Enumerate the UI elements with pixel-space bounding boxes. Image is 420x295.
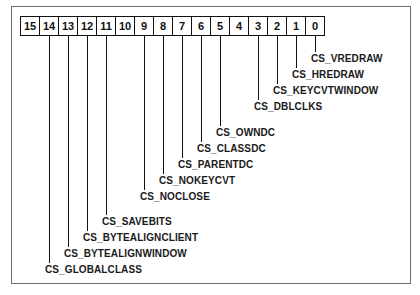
bit-cell-3: 3: [248, 16, 268, 36]
leader-line-bit-12: [87, 36, 88, 231]
flag-label-cs-bytealignclient: CS_BYTEALIGNCLIENT: [83, 232, 198, 243]
bit-cell-12: 12: [77, 16, 97, 36]
leader-line-bit-7: [182, 36, 183, 158]
leader-line-bit-13: [68, 36, 69, 247]
bit-cell-6: 6: [191, 16, 211, 36]
leader-line-bit-1: [296, 36, 297, 68]
leader-line-bit-5: [220, 36, 221, 126]
leader-line-bit-2: [277, 36, 278, 84]
flag-label-cs-noclose: CS_NOCLOSE: [140, 191, 210, 202]
bit-cell-15: 15: [20, 16, 40, 36]
leader-line-bit-3: [258, 36, 259, 100]
bit-cell-7: 7: [172, 16, 192, 36]
bit-cell-14: 14: [39, 16, 59, 36]
leader-line-bit-0: [315, 36, 316, 52]
bit-cell-9: 9: [134, 16, 154, 36]
leader-line-bit-14: [49, 36, 50, 263]
bit-cell-5: 5: [210, 16, 230, 36]
leader-line-bit-9: [144, 36, 145, 190]
flag-label-cs-parentdc: CS_PARENTDC: [178, 159, 253, 170]
leader-line-bit-11: [106, 36, 107, 215]
bit-cell-11: 11: [96, 16, 116, 36]
flag-label-cs-dblclks: CS_DBLCLKS: [254, 101, 322, 112]
flag-label-cs-vredraw: CS_VREDRAW: [311, 53, 383, 64]
leader-line-bit-8: [163, 36, 164, 174]
bit-cell-2: 2: [267, 16, 287, 36]
flag-label-cs-globalclass: CS_GLOBALCLASS: [45, 264, 142, 275]
flag-label-cs-owndc: CS_OWNDC: [216, 127, 275, 138]
bit-cell-8: 8: [153, 16, 173, 36]
bit-cell-1: 1: [286, 16, 306, 36]
flag-label-cs-hredraw: CS_HREDRAW: [292, 69, 364, 80]
bit-cell-10: 10: [115, 16, 135, 36]
flag-label-cs-bytealignwindow: CS_BYTEALIGNWINDOW: [64, 248, 187, 259]
bit-cell-4: 4: [229, 16, 249, 36]
flag-label-cs-classdc: CS_CLASSDC: [197, 143, 266, 154]
flag-label-cs-keycvtwindow: CS_KEYCVTWINDOW: [273, 85, 378, 96]
bit-cell-0: 0: [305, 16, 325, 36]
bit-field-row: 1514131211109876543210: [20, 16, 325, 36]
leader-line-bit-6: [201, 36, 202, 142]
flag-label-cs-savebits: CS_SAVEBITS: [102, 216, 172, 227]
flag-label-cs-nokeycvt: CS_NOKEYCVT: [159, 175, 235, 186]
bit-cell-13: 13: [58, 16, 78, 36]
